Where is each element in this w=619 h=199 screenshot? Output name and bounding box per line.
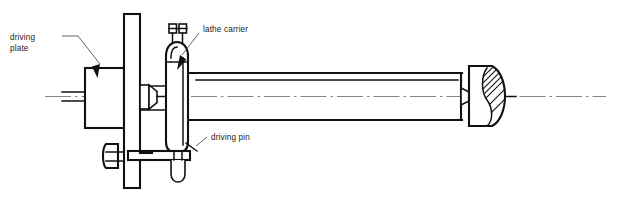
driving-plate-hub: [62, 68, 124, 128]
driving-plate-label-line2: plate: [10, 44, 29, 53]
tailstock-center: [461, 54, 538, 126]
technical-drawing-canvas: driving plate lathe carrier driving pin: [0, 0, 619, 199]
lathe-carrier-label: lathe carrier: [203, 25, 248, 34]
carrier-clamp-screws: [169, 24, 187, 43]
driving-pin-label: driving pin: [211, 133, 250, 142]
headstock-center: [140, 85, 166, 109]
label-driving-plate: driving plate: [10, 33, 35, 53]
driving-plate: [124, 14, 140, 188]
driving-pin-leader: [186, 137, 207, 151]
driving-plate-label-line1: driving: [10, 33, 35, 42]
driving-plate-leader: [62, 36, 100, 64]
label-driving-pin: driving pin: [211, 133, 250, 142]
label-lathe-carrier: lathe carrier: [203, 25, 248, 34]
lathe-assembly-figure: driving plate lathe carrier driving pin: [0, 0, 619, 199]
